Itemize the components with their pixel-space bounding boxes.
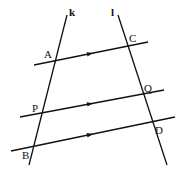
line-label-k: k xyxy=(69,6,76,18)
diagram-svg: k l A C P Q B D xyxy=(0,0,180,175)
transversal-k xyxy=(29,15,67,165)
parallel-lines xyxy=(11,42,175,151)
parallel-arrow-markers xyxy=(87,52,93,137)
point-label-b: B xyxy=(22,149,29,161)
point-label-q: Q xyxy=(144,82,152,94)
transversal-l xyxy=(118,15,167,165)
point-label-p: P xyxy=(32,102,38,114)
geometry-diagram: k l A C P Q B D xyxy=(0,0,180,175)
point-label-a: A xyxy=(44,48,52,60)
point-label-c: C xyxy=(129,32,136,44)
parallel-line-bd xyxy=(11,117,175,151)
point-label-d: D xyxy=(155,124,163,136)
line-label-l: l xyxy=(111,6,114,18)
